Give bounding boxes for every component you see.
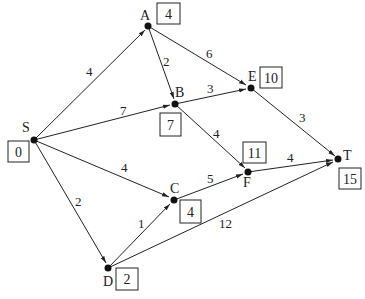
distance-value-F: 11 <box>248 146 261 161</box>
weight-D-C: 1 <box>138 216 145 231</box>
edge-S-C <box>34 140 169 197</box>
weight-E-T: 3 <box>299 110 306 125</box>
edge-D-C <box>108 204 170 268</box>
weight-C-F: 5 <box>207 171 214 186</box>
node-B <box>172 101 179 108</box>
distance-value-A: 4 <box>165 7 172 22</box>
edge-S-B <box>34 105 170 140</box>
node-E <box>248 85 255 92</box>
weight-A-E: 6 <box>206 46 213 61</box>
weight-D-T: 12 <box>219 216 232 231</box>
distance-value-T: 15 <box>343 172 357 187</box>
nodes: S 0 A 4 B 7 E 10 C 4 F 11 T 15 D <box>8 3 361 290</box>
node-D <box>105 265 112 272</box>
distance-value-B: 7 <box>167 118 174 133</box>
node-label-S: S <box>22 120 30 135</box>
node-label-F: F <box>243 175 251 190</box>
node-label-T: T <box>343 148 352 163</box>
distance-value-D: 2 <box>124 272 131 287</box>
weight-S-C: 4 <box>121 160 128 175</box>
graph-diagram: 4 7 4 2 2 6 3 4 3 5 4 1 12 S 0 A 4 B 7 E… <box>0 0 365 299</box>
distance-value-C: 4 <box>187 205 194 220</box>
edge-B-F <box>175 104 245 168</box>
node-A <box>145 23 152 30</box>
weight-S-A: 4 <box>86 64 93 79</box>
weight-S-D: 2 <box>75 194 82 209</box>
node-label-B: B <box>175 85 184 100</box>
weight-B-E: 3 <box>207 81 214 96</box>
edge-S-A <box>34 30 145 140</box>
node-C <box>171 197 178 204</box>
edges <box>34 26 335 268</box>
edge-S-D <box>34 140 106 263</box>
node-label-D: D <box>103 274 113 289</box>
node-label-E: E <box>248 69 257 84</box>
node-label-C: C <box>170 181 179 196</box>
weight-F-T: 4 <box>287 150 294 165</box>
edge-D-T <box>108 162 333 268</box>
weight-B-F: 4 <box>213 126 220 141</box>
distance-value-S: 0 <box>15 145 22 160</box>
node-S <box>31 137 38 144</box>
node-T <box>335 156 342 163</box>
node-label-A: A <box>140 8 151 23</box>
distance-value-E: 10 <box>264 71 278 86</box>
weight-A-B: 2 <box>163 54 170 69</box>
weight-S-B: 7 <box>120 103 127 118</box>
edge-A-B <box>148 26 174 99</box>
